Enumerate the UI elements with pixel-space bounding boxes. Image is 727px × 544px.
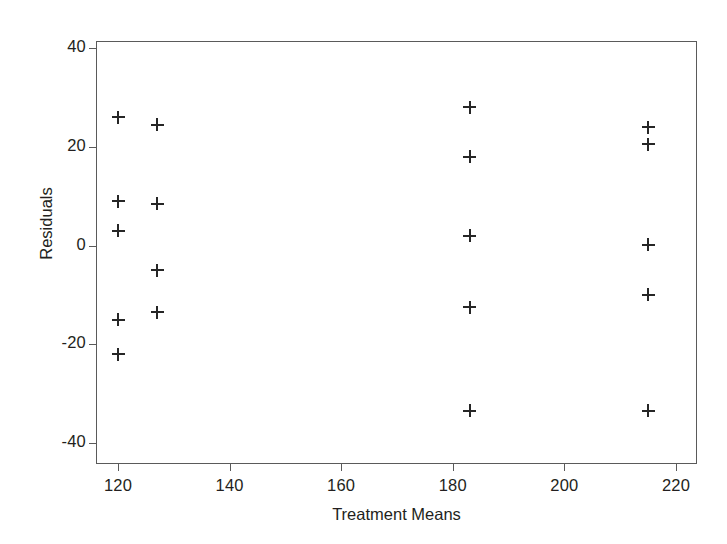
x-axis-label: Treatment Means	[96, 505, 697, 524]
y-tick-mark	[89, 443, 96, 444]
y-tick-mark	[89, 344, 96, 345]
y-tick-mark	[89, 147, 96, 148]
x-tick-label: 180	[418, 476, 488, 495]
x-tick-mark	[453, 464, 454, 471]
y-tick-label: -40	[16, 432, 86, 451]
x-tick-mark	[341, 464, 342, 471]
x-tick-mark	[118, 464, 119, 471]
y-axis-label: Residuals	[37, 94, 56, 354]
x-tick-label: 200	[529, 476, 599, 495]
y-tick-mark	[89, 48, 96, 49]
x-tick-mark	[676, 464, 677, 471]
x-tick-label: 120	[83, 476, 153, 495]
plot-area-frame	[96, 41, 697, 464]
x-tick-label: 140	[195, 476, 265, 495]
residual-plot-figure: 120140160180200220 40200-20-40 Treatment…	[0, 0, 727, 544]
y-tick-mark	[89, 246, 96, 247]
x-tick-mark	[564, 464, 565, 471]
x-tick-mark	[230, 464, 231, 471]
x-tick-label: 160	[306, 476, 376, 495]
y-tick-label: 40	[16, 37, 86, 56]
x-tick-label: 220	[641, 476, 711, 495]
